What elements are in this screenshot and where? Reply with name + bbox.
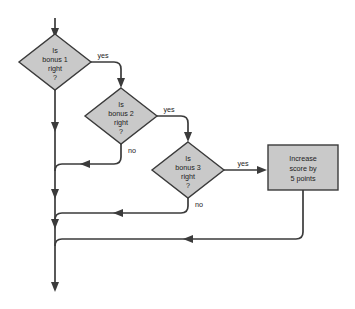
decision-bonus-2-line-1: Is: [118, 100, 124, 109]
connector-yes-1: [90, 62, 125, 88]
decision-bonus-3-line-4: ?: [186, 181, 190, 190]
decision-bonus-1-line-1: Is: [52, 46, 58, 55]
decision-bonus-2-line-4: ?: [119, 127, 123, 136]
decision-bonus-2-line-2: bonus 2: [108, 109, 134, 118]
process-increase-score[interactable]: Increase score by 5 points: [268, 145, 338, 190]
connector-process-return: [55, 190, 303, 246]
connector-no-3: [55, 198, 188, 220]
edge-label-no-3: no: [195, 200, 203, 209]
edge-label-yes-3: yes: [237, 159, 249, 168]
decision-bonus-1-line-3: right: [48, 64, 62, 73]
decision-bonus-2-line-3: right: [114, 118, 128, 127]
process-increase-score-line-1: Increase: [289, 154, 317, 163]
edge-label-yes-1: yes: [97, 51, 109, 60]
connector-no-2: [55, 144, 121, 171]
decision-bonus-3-line-2: bonus 3: [175, 163, 201, 172]
connector-main-spine: [51, 90, 59, 292]
flowchart-canvas: Is bonus 1 right ? Is bonus 2 right ? Is…: [0, 0, 355, 309]
connector-yes-2: [156, 116, 192, 142]
edge-label-no-2: no: [128, 146, 136, 155]
edge-label-yes-2: yes: [163, 105, 175, 114]
decision-bonus-1-line-2: bonus 1: [42, 55, 68, 64]
decision-bonus-1-line-4: ?: [53, 73, 57, 82]
process-increase-score-line-3: 5 points: [290, 174, 316, 183]
decision-bonus-3[interactable]: Is bonus 3 right ?: [152, 142, 224, 198]
decision-bonus-3-line-3: right: [181, 172, 195, 181]
decision-bonus-2[interactable]: Is bonus 2 right ?: [85, 88, 157, 144]
decision-bonus-3-line-1: Is: [185, 154, 191, 163]
decision-bonus-1[interactable]: Is bonus 1 right ?: [19, 34, 91, 90]
process-increase-score-line-2: score by: [289, 164, 317, 173]
